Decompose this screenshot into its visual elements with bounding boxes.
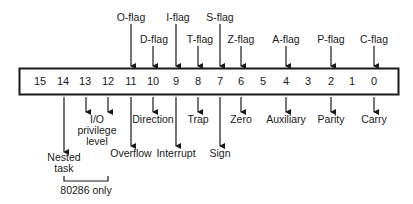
label-s-flag: S-flag [206,12,233,23]
bit-10: 10 [147,75,159,87]
label-p-flag: P-flag [317,34,344,45]
bit-3: 3 [305,75,311,87]
label-io-privilege-level: I/O privilege level [77,114,116,147]
bit-4: 4 [283,75,289,87]
label-i-flag: I-flag [166,12,189,23]
label-direction: Direction [132,114,173,125]
bit-15: 15 [34,75,46,87]
bit-2: 2 [328,75,334,87]
label-d-flag: D-flag [140,34,168,45]
label-interrupt: Interrupt [156,148,195,159]
bracket-80286 [64,176,108,181]
iopl-line-3: level [77,136,116,147]
bit-13: 13 [79,75,91,87]
bit-5: 5 [260,75,266,87]
bit-1: 1 [349,75,355,87]
bit-9: 9 [173,75,179,87]
bit-6: 6 [238,75,244,87]
label-z-flag: Z-flag [228,34,255,45]
label-parity: Parity [318,114,345,125]
label-sign: Sign [209,148,230,159]
label-t-flag: T-flag [187,34,213,45]
label-carry: Carry [361,114,387,125]
label-overflow: Overflow [110,148,151,159]
bit-11: 11 [125,75,136,87]
label-o-flag: O-flag [117,12,146,23]
bit-14: 14 [57,75,69,87]
register-box [20,69,399,95]
bit-0: 0 [371,75,377,87]
bit-8: 8 [195,75,201,87]
label-zero: Zero [230,114,252,125]
label-a-flag: A-flag [272,34,299,45]
label-c-flag: C-flag [360,34,388,45]
label-trap: Trap [187,114,208,125]
label-80286-only: 80286 only [60,185,111,196]
label-auxiliary: Auxiliary [266,114,306,125]
flags-register-diagram: 15 14 13 12 11 10 9 8 7 6 5 4 3 2 1 0 O-… [0,0,413,204]
nested-line-2: task [47,163,80,174]
bit-7: 7 [217,75,223,87]
label-nested-task: Nested task [47,152,80,174]
bit-12: 12 [102,75,114,87]
